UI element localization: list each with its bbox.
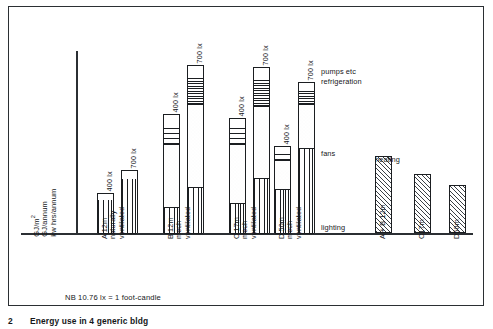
annotation-lighting: lighting [321, 223, 345, 232]
figure-caption-number: 2 [8, 316, 30, 326]
annotation-heating: heating [375, 155, 400, 164]
bar-segment-refrigeration [275, 151, 290, 161]
bar-segment-pumps-etc [122, 171, 137, 179]
bar-segment-fans [254, 107, 269, 180]
bar-segment-fans [275, 161, 290, 189]
y-axis-line [76, 51, 78, 233]
figure-caption-text: Energy use in 4 generic bldg [30, 316, 148, 326]
category-label: D 50mmechventilated [278, 207, 303, 239]
category-label: C 17mmechventilated [233, 207, 258, 239]
category-label: B 12mmechventilated [167, 207, 192, 239]
heating-category-label-line: D [452, 234, 461, 239]
bar-segment-fans [230, 145, 245, 204]
bar-segment-pumps-etc [299, 83, 314, 91]
bar-segment-refrigeration [230, 127, 245, 145]
bar-segment-refrigeration [254, 80, 269, 106]
bar-segment-pumps-etc [188, 66, 203, 78]
bar-lux-label: 400 lx [104, 171, 113, 191]
chart-plot-area: GJ/m2 GJ/annum kw hrs/annum 400 lx700 lx… [9, 7, 485, 307]
y-axis-unit-3: kw hrs/annum [50, 127, 59, 237]
bar-lux-label: 400 lx [170, 92, 179, 112]
annotation-refrigeration: refrigeration [321, 77, 362, 86]
category-label-line: ventilated [184, 207, 192, 239]
bar-segment-fans [188, 105, 203, 188]
heating-category-label-line: 17m [417, 219, 426, 234]
category-label: A 12mnaturallyventilated [101, 207, 126, 239]
bar-segment-pumps-etc [254, 68, 269, 80]
bar-lux-label: 700 lx [260, 45, 269, 65]
bar-lux-label: 400 lx [281, 124, 290, 144]
heating-category-label-line: C [417, 234, 426, 239]
category-label-line: ventilated [250, 207, 258, 239]
bar-lux-label: 400 lx [236, 96, 245, 116]
bar-lux-label: 700 lx [128, 149, 137, 169]
heating-category-label: A + B 12m [379, 204, 387, 239]
heating-category-label: D50m [453, 219, 461, 239]
annotation-pumps: pumps etc [321, 67, 356, 76]
figure-caption: 2Energy use in 4 generic bldg [8, 316, 148, 326]
bar-lux-label: 700 lx [194, 43, 203, 63]
annotation-fans: fans [321, 149, 335, 158]
figure-frame: GJ/m2 GJ/annum kw hrs/annum 400 lx700 lx… [8, 6, 484, 306]
bar-segment-refrigeration [299, 91, 314, 105]
bar-lux-label: 700 lx [305, 60, 314, 80]
bar-segment-fans [299, 105, 314, 149]
heating-category-label-line: 50m [452, 219, 461, 234]
bar-segment-pumps-etc [230, 119, 245, 127]
heating-category-label: C17m [418, 219, 426, 239]
bar-segment-refrigeration [164, 125, 179, 145]
bar-segment-pumps-etc [164, 115, 179, 125]
category-label-line: ventilated [295, 207, 303, 239]
bar-segment-refrigeration [188, 78, 203, 104]
bar-segment-fans [164, 145, 179, 208]
category-label-line: ventilated [118, 207, 126, 239]
heating-category-label-line: A + B 12m [378, 204, 387, 239]
footnote-text: NB 10.76 lx = 1 foot-candle [65, 293, 161, 302]
y-axis-caption: GJ/m2 GJ/annum kw hrs/annum [29, 127, 58, 237]
